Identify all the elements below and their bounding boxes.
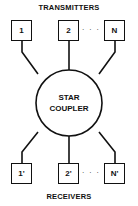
transmitter-box-1: 1 (11, 20, 32, 41)
receiver-box-n: N' (104, 163, 125, 184)
star-coupler-line1: STAR (36, 92, 102, 103)
receivers-title: RECEIVERS (0, 192, 138, 201)
transmitter-box-2: 2 (58, 20, 79, 41)
receiver-ellipsis: · · · (82, 169, 100, 176)
transmitters-title: TRANSMITTERS (0, 3, 138, 12)
transmitter-ellipsis: · · · (82, 26, 100, 33)
receiver-box-2: 2' (58, 163, 79, 184)
receiver-box-1: 1' (11, 163, 32, 184)
star-coupler-label: STAR COUPLER (36, 92, 102, 114)
star-coupler-line2: COUPLER (36, 103, 102, 114)
transmitter-box-n: N (104, 20, 125, 41)
